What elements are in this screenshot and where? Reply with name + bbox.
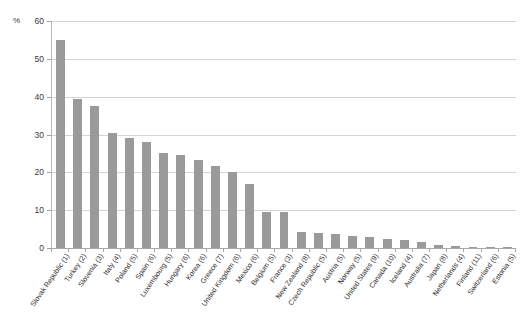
y-tick-label-10: 10 <box>18 205 44 215</box>
y-tick-label-60: 60 <box>18 16 44 26</box>
bar <box>262 212 271 248</box>
bar <box>400 240 409 248</box>
bar <box>383 239 392 248</box>
bar <box>194 160 203 248</box>
plot-area <box>51 21 515 248</box>
y-tick-label-30: 30 <box>18 130 44 140</box>
y-tick-label-40: 40 <box>18 92 44 102</box>
y-tick-mark-60 <box>47 21 51 22</box>
bar <box>331 234 340 248</box>
bar <box>314 233 323 248</box>
bar <box>280 212 289 248</box>
bar <box>245 184 254 248</box>
bar <box>142 142 151 248</box>
y-tick-mark-30 <box>47 135 51 136</box>
bar <box>90 106 99 248</box>
bar <box>73 99 82 248</box>
bar <box>56 40 65 248</box>
bars-layer <box>52 21 516 248</box>
bar-chart: % 0102030405060 Slovak Republic (1)Turke… <box>0 0 522 331</box>
y-tick-mark-20 <box>47 172 51 173</box>
bar <box>228 172 237 248</box>
bar <box>365 237 374 248</box>
x-tick-mark <box>515 248 516 252</box>
y-tick-mark-50 <box>47 59 51 60</box>
y-tick-mark-10 <box>47 210 51 211</box>
y-tick-label-50: 50 <box>18 54 44 64</box>
bar <box>125 138 134 248</box>
bar <box>348 236 357 248</box>
y-tick-label-0: 0 <box>18 243 44 253</box>
bar <box>176 155 185 248</box>
bar <box>159 153 168 248</box>
bar <box>211 166 220 248</box>
y-tick-label-20: 20 <box>18 167 44 177</box>
bar <box>108 133 117 248</box>
bar <box>297 232 306 248</box>
y-tick-mark-40 <box>47 97 51 98</box>
x-axis-category-labels: Slovak Republic (1)Turkey (2)Slovenia (3… <box>51 252 515 331</box>
